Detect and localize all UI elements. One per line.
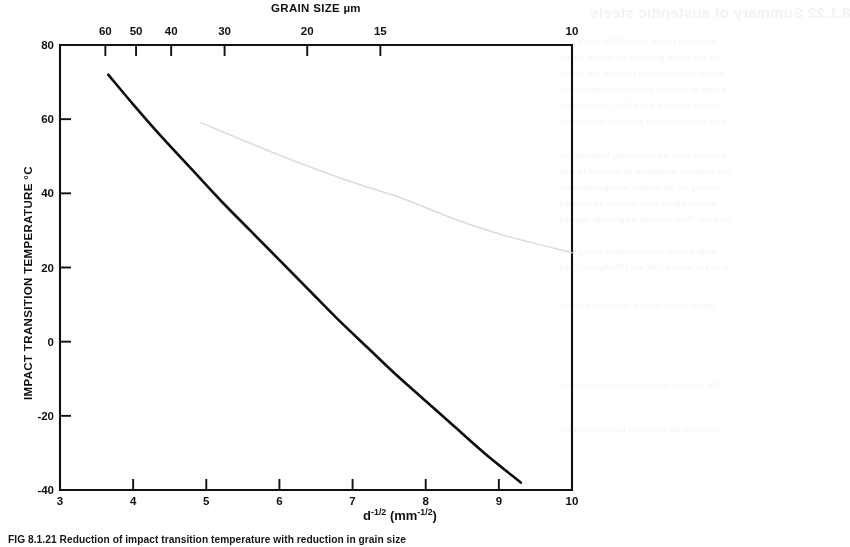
top-axis-title: GRAIN SIZE µm: [271, 2, 361, 14]
top-tick-label: 60: [99, 25, 112, 37]
top-tick-label: 40: [165, 25, 178, 37]
left-axis-ticks: [60, 119, 71, 416]
top-axis-ticks: [105, 45, 380, 56]
bottom-tick-label: 7: [349, 495, 355, 507]
bottom-tick-label: 5: [203, 495, 209, 507]
bottom-axis-ticks: [133, 479, 499, 490]
ghost-heading: 8.1.22 Summary of austenitic steels: [590, 4, 850, 21]
x-axis-title-exponent: -1/2: [371, 507, 386, 517]
bottom-tick-label: 10: [566, 495, 579, 507]
transition-temperature-curve: [108, 75, 521, 483]
x-axis-title-unit-close: ): [433, 508, 437, 523]
top-tick-label: 30: [218, 25, 231, 37]
x-axis-title-symbol: d: [363, 508, 371, 523]
y-tick-label: 60: [12, 113, 54, 125]
top-tick-label: 50: [130, 25, 143, 37]
top-tick-label: 15: [374, 25, 387, 37]
bottom-tick-label: 3: [57, 495, 63, 507]
top-tick-label: 10: [566, 25, 579, 37]
y-tick-label: 80: [12, 39, 54, 51]
faint-offset-curve: [201, 123, 572, 253]
y-tick-label: -40: [12, 484, 54, 496]
x-axis-title-unit-open: (mm: [390, 508, 417, 523]
y-axis-title: IMPACT TRANSITION TEMPERATURE °C: [22, 166, 34, 400]
figure-caption: FIG 8.1.21 Reduction of impact transitio…: [8, 534, 588, 546]
axis-frame: [60, 45, 572, 490]
x-axis-title-unit-exponent: -1/2: [417, 507, 432, 517]
x-axis-title: d-1/2 (mm-1/2): [363, 507, 437, 523]
y-tick-label: -20: [12, 410, 54, 422]
bottom-tick-label: 9: [496, 495, 502, 507]
bottom-tick-label: 6: [276, 495, 282, 507]
top-tick-label: 20: [301, 25, 314, 37]
bottom-tick-label: 8: [423, 495, 429, 507]
bottom-tick-label: 4: [130, 495, 136, 507]
